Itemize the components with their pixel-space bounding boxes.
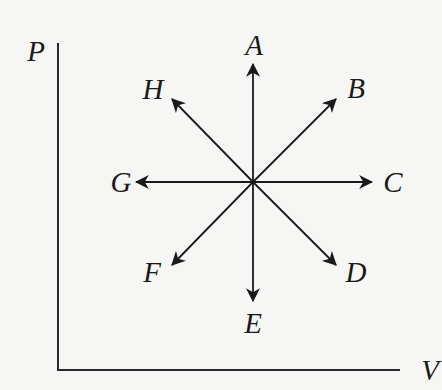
label-C: C [383,168,402,197]
center-point [251,180,255,184]
label-E: E [244,309,262,338]
label-F: F [143,258,161,287]
label-B: B [347,74,365,103]
label-D: D [346,258,367,287]
diagram-canvas: P V A B C D E F G H [0,0,442,390]
arrow-B-up-right [253,99,336,182]
arrow-D-down-right [253,182,336,265]
arrow-F-down-left [172,182,253,265]
label-A: A [245,31,263,60]
pv-diagram [0,0,442,390]
label-G: G [111,168,132,197]
x-axis-label: V [421,356,439,385]
arrow-H-up-left [172,99,253,182]
y-axis-label: P [27,37,45,66]
label-H: H [143,75,164,104]
